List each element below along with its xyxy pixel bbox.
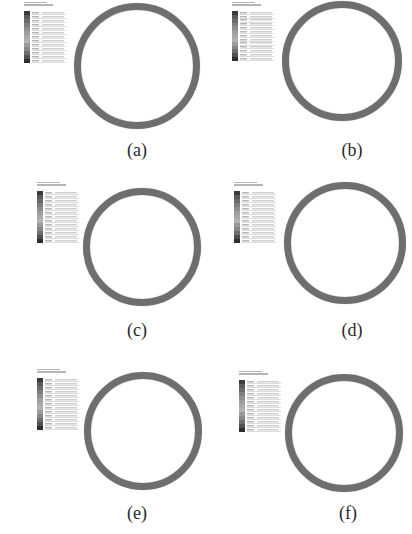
pipe-cross-section-ring [83, 188, 201, 306]
legend-header [37, 369, 79, 378]
legend-values [32, 11, 66, 63]
legend-values [45, 191, 79, 243]
pipe-cross-section-ring [84, 372, 202, 490]
legend-color-scale [239, 380, 245, 432]
panel-caption: (c) [127, 320, 147, 341]
legend-values [45, 378, 79, 430]
panel-caption: (b) [342, 140, 363, 161]
contour-legend [239, 370, 281, 432]
legend-header [234, 182, 276, 191]
legend-values [247, 380, 281, 432]
panel-caption: (f) [339, 503, 357, 524]
pipe-cross-section-ring [74, 3, 200, 129]
panel-caption: (e) [127, 503, 147, 524]
contour-legend [37, 181, 79, 243]
legend-values [242, 191, 276, 243]
legend-color-scale [37, 378, 43, 430]
pipe-cross-section-ring [282, 1, 402, 121]
legend-header [239, 371, 281, 380]
legend-color-scale [24, 11, 30, 63]
contour-legend [232, 1, 274, 61]
legend-header [232, 2, 274, 11]
legend-header [24, 2, 66, 11]
panel-caption: (d) [342, 320, 363, 341]
legend-color-scale [232, 11, 238, 61]
contour-legend [234, 181, 276, 243]
pipe-cross-section-ring [284, 182, 406, 304]
pipe-cross-section-ring [285, 374, 403, 492]
contour-legend [24, 1, 66, 63]
legend-color-scale [234, 191, 240, 243]
legend-color-scale [37, 191, 43, 243]
legend-values [240, 11, 274, 61]
legend-header [37, 182, 79, 191]
contour-legend [37, 368, 79, 430]
panel-caption: (a) [127, 140, 147, 161]
